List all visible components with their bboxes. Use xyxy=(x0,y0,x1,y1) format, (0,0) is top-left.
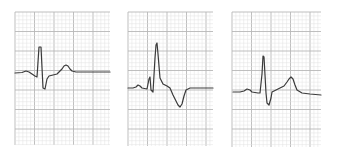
ecg-panel-3 xyxy=(232,12,321,147)
ecg-panel-1 xyxy=(15,12,110,145)
ecg-panel-2 xyxy=(128,12,213,146)
ecg-trace xyxy=(15,47,110,89)
ecg-grid xyxy=(15,12,110,145)
ecg-figure xyxy=(0,0,337,158)
ecg-trace xyxy=(128,43,213,107)
ecg-grid xyxy=(232,12,321,147)
ecg-grid xyxy=(128,12,213,146)
